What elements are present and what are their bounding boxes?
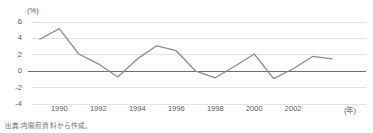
y-tick-label: 2 [2,50,22,59]
y-tick-label: 6 [2,17,22,26]
x-tick-label: 2000 [237,104,271,113]
y-axis-unit-label: (%) [27,6,39,15]
chart-plot-area [0,0,373,133]
x-tick-label: 1992 [81,104,115,113]
gridlines [32,22,366,104]
x-tick-label: 1994 [120,104,154,113]
x-tick-label: 1998 [198,104,232,113]
y-tick-label: 0 [2,66,22,75]
x-tick-label: 2002 [276,104,310,113]
y-tick-label: -4 [2,99,22,108]
y-tick-label: -2 [2,83,22,92]
y-tick-label: 4 [2,33,22,42]
x-tick-label: 1990 [42,104,76,113]
source-note: 出典:内閣府資料から作成。 [5,120,92,130]
chart-figure: (%) 6420-2-4 199019921994199619982000200… [0,0,373,133]
x-axis-unit-label: (年) [344,104,356,115]
x-tick-label: 1996 [159,104,193,113]
